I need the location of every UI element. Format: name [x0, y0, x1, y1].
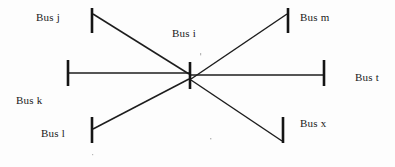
bus-label-bus-i: Bus i: [172, 28, 196, 39]
scan-speckle: [210, 138, 211, 139]
bus-label-bus-j: Bus j: [36, 12, 60, 23]
bus-label-bus-m: Bus m: [300, 12, 329, 23]
line-bus-m-to-bus-i: [191, 14, 287, 79]
scan-speckle: [92, 154, 93, 155]
bus-label-bus-l: Bus l: [41, 128, 65, 139]
bus-label-bus-x: Bus x: [300, 118, 326, 129]
line-bus-x-to-bus-i: [191, 80, 282, 141]
bus-label-bus-t: Bus t: [355, 72, 379, 83]
diagram-canvas: [0, 0, 395, 167]
scan-speckle: [200, 53, 201, 55]
line-bus-l-to-bus-i: [93, 79, 189, 129]
scan-speckles: [92, 53, 211, 155]
one-line-diagram: Bus j Bus i Bus m Bus k Bus t Bus l Bus …: [0, 0, 395, 167]
bus-label-bus-k: Bus k: [16, 95, 42, 106]
line-bus-j-to-bus-i: [93, 14, 189, 74]
transmission-lines: [69, 14, 323, 141]
